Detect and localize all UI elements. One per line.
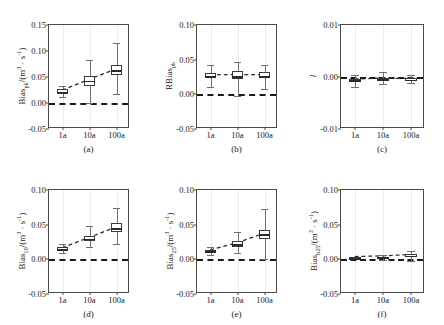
y-axis-label-b: RBiaspk (164, 24, 176, 128)
y-axis-label-c: l (308, 24, 318, 128)
panel-caption-c: (c) (377, 144, 387, 154)
panel-caption-f: (f) (378, 309, 387, 319)
median-line (405, 80, 417, 82)
y-tick-mark (46, 103, 49, 104)
y-tick-label: 0.00 (31, 98, 46, 108)
y-tick-label: 0.10 (31, 46, 46, 56)
x-tick-label-1a: 1a (206, 295, 214, 305)
y-tick-label: 0.00 (323, 254, 338, 264)
y-tick-mark (46, 25, 49, 26)
whisker-cap-upper (113, 43, 120, 44)
y-tick-label: 0.05 (179, 220, 194, 230)
x-tick-label-1a: 1a (351, 295, 359, 305)
y-tick-mark (46, 224, 49, 225)
y-tick-mark (338, 25, 341, 26)
y-tick-mark (194, 259, 197, 260)
y-axis-label-d: Bias10/(m3 · s-1) (16, 189, 29, 293)
whisker-cap-lower (407, 261, 414, 262)
y-tick-label: -0.05 (176, 124, 194, 134)
y-tick-mark (46, 129, 49, 130)
y-tick-mark (46, 294, 49, 295)
median-line (84, 239, 95, 241)
y-tick-label: 0.00 (179, 254, 194, 264)
y-tick-mark (46, 51, 49, 52)
panel-caption-a: (a) (84, 144, 94, 154)
panel-c: -0.010.000.011a10a100al(c) (340, 24, 424, 128)
median-line (349, 80, 361, 82)
whisker-cap-upper (234, 232, 241, 233)
whisker-cap-lower (113, 244, 120, 245)
y-axis-label-e: Bias25/(m3 · s-1) (164, 189, 177, 293)
median-line (349, 258, 361, 260)
trend-line (341, 190, 423, 292)
whisker-cap-upper (59, 244, 66, 245)
panel-caption-e: (e) (232, 309, 242, 319)
plot-area-d: -0.050.000.050.101a10a100a (48, 189, 129, 293)
x-tick-label-1a: 1a (351, 130, 359, 140)
plot-area-e: -0.050.000.050.101a10a100a (196, 189, 277, 293)
median-line (232, 244, 243, 246)
x-tick-label-100a: 100a (108, 130, 125, 140)
panel-b: -0.050.000.050.101a10a100aRBiaspk(b) (196, 24, 277, 128)
x-tick-label-10a: 10a (377, 130, 389, 140)
whisker-cap-upper (86, 60, 93, 61)
median-line (259, 234, 270, 236)
x-tick-label-100a: 100a (403, 130, 420, 140)
panel-a: -0.050.000.050.100.151a10a100aBiaspk/(m3… (48, 24, 129, 128)
whisker-cap-lower (86, 247, 93, 248)
y-tick-label: -0.05 (176, 289, 194, 299)
median-line (377, 79, 389, 81)
y-tick-mark (194, 25, 197, 26)
y-tick-mark (194, 129, 197, 130)
panel-caption-d: (d) (83, 309, 94, 319)
median-line (111, 228, 122, 230)
whisker-cap-upper (407, 251, 414, 252)
plot-area-b: -0.050.000.050.101a10a100a (196, 24, 277, 128)
median-line (377, 257, 389, 259)
x-tick-label-100a: 100a (256, 130, 273, 140)
y-axis-label-f: Biasb25/(m3 · s-1) (308, 189, 321, 293)
y-tick-label: 0.00 (31, 254, 46, 264)
whisker-cap-upper (207, 247, 214, 248)
whisker-cap-lower (207, 87, 214, 88)
y-tick-label: -0.01 (320, 124, 338, 134)
whisker-cap-upper (207, 65, 214, 66)
y-tick-mark (194, 294, 197, 295)
y-tick-mark (338, 129, 341, 130)
y-tick-mark (338, 77, 341, 78)
cut-header-text (4, 0, 204, 8)
median-line (205, 76, 216, 78)
y-tick-label: -0.05 (28, 289, 46, 299)
y-tick-label: 0.10 (179, 185, 194, 195)
whisker-cap-lower (261, 259, 268, 260)
whisker-cap-lower (86, 103, 93, 104)
whisker-cap-upper (351, 75, 358, 76)
whisker-cap-lower (113, 94, 120, 95)
x-tick-label-100a: 100a (403, 295, 420, 305)
y-tick-label: 0.05 (179, 55, 194, 65)
whisker-cap-lower (379, 260, 386, 261)
y-tick-label: 0.01 (323, 20, 338, 30)
whisker-cap-upper (234, 62, 241, 63)
y-tick-label: -0.05 (320, 289, 338, 299)
panel-e: -0.050.000.050.101a10a100aBias25/(m3 · s… (196, 189, 277, 293)
whisker-cap-lower (234, 253, 241, 254)
y-tick-mark (194, 190, 197, 191)
y-tick-label: 0.05 (31, 220, 46, 230)
whisker-cap-lower (59, 97, 66, 98)
y-tick-mark (46, 190, 49, 191)
whisker-cap-lower (407, 83, 414, 84)
whisker-cap-upper (86, 226, 93, 227)
y-tick-mark (194, 59, 197, 60)
x-tick-label-10a: 10a (231, 295, 243, 305)
x-tick-label-1a: 1a (58, 295, 66, 305)
x-tick-label-10a: 10a (377, 295, 389, 305)
whisker-cap-upper (59, 86, 66, 87)
median-line (57, 92, 68, 94)
whisker-cap-lower (379, 84, 386, 85)
y-tick-label: 0.05 (323, 220, 338, 230)
y-tick-mark (338, 190, 341, 191)
median-line (232, 76, 243, 78)
x-tick-label-10a: 10a (231, 130, 243, 140)
y-tick-mark (338, 224, 341, 225)
